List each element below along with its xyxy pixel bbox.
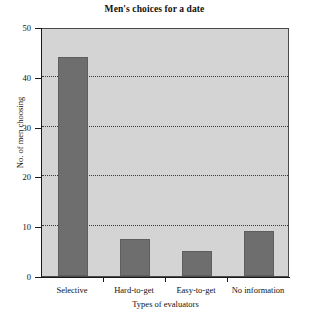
- chart-title: Men's choices for a date: [0, 3, 309, 15]
- y-axis-line: [41, 28, 42, 278]
- x-axis-title: Types of evaluators: [41, 299, 290, 309]
- y-axis-title: No. of men choosing: [16, 78, 25, 188]
- y-axis-tick: [35, 28, 41, 29]
- chart-figure: Men's choices for a date 01020304050 No.…: [0, 0, 309, 319]
- x-axis-tick-label: No information: [219, 285, 297, 295]
- y-axis-tick-label: 0: [0, 273, 31, 282]
- y-axis-tick-label: 50: [0, 24, 31, 33]
- y-axis-tick: [35, 128, 41, 129]
- bar: [120, 239, 150, 276]
- y-axis-tick: [35, 227, 41, 228]
- bar: [182, 251, 212, 276]
- x-axis-tick: [103, 277, 104, 282]
- bar: [244, 231, 274, 276]
- x-axis-tick: [165, 277, 166, 282]
- x-axis-tick: [227, 277, 228, 282]
- y-axis-tick: [35, 177, 41, 178]
- plot-area: [41, 28, 289, 277]
- y-axis-tick: [35, 78, 41, 79]
- bar: [58, 57, 88, 276]
- y-axis-tick-label: 10: [0, 223, 31, 232]
